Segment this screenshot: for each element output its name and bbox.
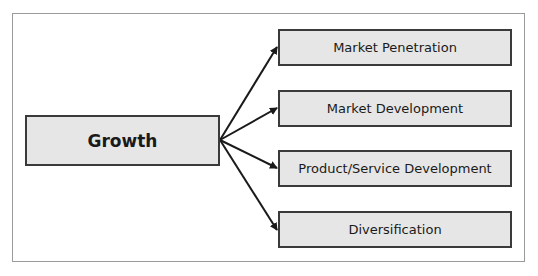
growth-label: Growth bbox=[88, 131, 158, 151]
diversification-label: Diversification bbox=[348, 222, 441, 237]
arrow-to-market-penetration bbox=[220, 47, 277, 140]
market-penetration-label: Market Penetration bbox=[333, 40, 457, 55]
market-development-box: Market Development bbox=[278, 90, 512, 127]
arrow-to-market-development bbox=[220, 108, 277, 140]
growth-box: Growth bbox=[25, 115, 220, 166]
market-development-label: Market Development bbox=[327, 101, 463, 116]
product-service-development-label: Product/Service Development bbox=[298, 161, 491, 176]
diversification-box: Diversification bbox=[278, 211, 512, 248]
product-service-development-box: Product/Service Development bbox=[278, 150, 512, 187]
market-penetration-box: Market Penetration bbox=[278, 29, 512, 66]
